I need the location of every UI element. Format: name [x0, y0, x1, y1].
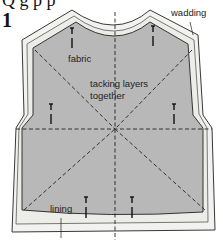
label-tacking-line2: together — [90, 91, 125, 101]
label-wadding: wadding — [171, 8, 206, 18]
label-tacking: tacking layers — [90, 79, 148, 89]
fabric-layer — [22, 22, 203, 215]
garment-diagram — [0, 0, 223, 243]
label-fabric: fabric — [68, 54, 91, 64]
label-lining: lining — [50, 204, 72, 214]
